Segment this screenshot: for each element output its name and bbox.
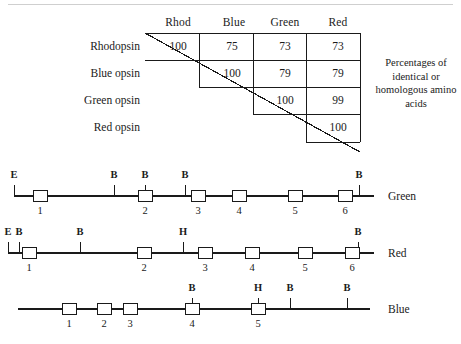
exon-box — [198, 247, 213, 259]
restriction-tick-b3 — [185, 185, 186, 196]
exon-number: 5 — [285, 205, 305, 217]
exon-number: 1 — [30, 205, 50, 217]
matrix-cell-r3c3: 100 — [310, 121, 366, 134]
gene-map-green: E B B B B 1 2 3 4 5 6 Green — [0, 163, 461, 221]
figure-page: Rhod Blue Green Red Rhodopsin Blue opsin… — [0, 0, 461, 344]
matrix-cell-r1c1: 100 — [204, 67, 260, 80]
gene-map-label-blue: Blue — [388, 303, 458, 316]
restriction-tick-b2 — [80, 242, 81, 253]
matrix-cell-r0c3: 73 — [310, 40, 366, 53]
restriction-label-h: H — [251, 282, 265, 294]
matrix-cell-r0c1: 75 — [204, 40, 260, 53]
exon-box — [62, 303, 77, 315]
exon-number: 6 — [335, 205, 355, 217]
matrix-cell-r1c2: 79 — [257, 67, 313, 80]
matrix-cell-r0c0: 100 — [150, 40, 206, 53]
exon-box — [185, 303, 200, 315]
exon-box — [245, 247, 260, 259]
exon-box — [123, 303, 138, 315]
gene-map-label-red: Red — [388, 247, 458, 260]
exon-number: 4 — [229, 205, 249, 217]
exon-number: 5 — [295, 262, 315, 274]
restriction-tick-b1 — [19, 242, 20, 253]
exon-box — [97, 303, 112, 315]
exon-box — [33, 190, 48, 202]
exon-number: 5 — [248, 318, 268, 330]
exon-box — [251, 303, 266, 315]
restriction-label-e: E — [7, 169, 21, 181]
matrix-cell-r2c2: 100 — [257, 94, 313, 107]
exon-box — [288, 190, 303, 202]
gene-map-blue: B H B B 1 2 3 4 5 Blue — [0, 276, 461, 334]
exon-box — [298, 247, 313, 259]
matrix-cell-r2c3: 99 — [310, 94, 366, 107]
exon-box — [137, 247, 152, 259]
restriction-label-b2: B — [283, 282, 297, 294]
matrix-cell-r1c3: 79 — [310, 67, 366, 80]
exon-box — [345, 247, 360, 259]
exon-number: 2 — [94, 318, 114, 330]
matrix-caption: Percentages of identical or homologous a… — [372, 56, 460, 110]
exon-number: 3 — [195, 262, 215, 274]
exon-box — [232, 190, 247, 202]
exon-number: 2 — [135, 205, 155, 217]
gene-map-red: E B B H B 1 2 3 4 5 6 Red — [0, 220, 461, 278]
restriction-label-b1: B — [107, 169, 121, 181]
restriction-label-b3: B — [351, 226, 365, 238]
restriction-label-b3: B — [178, 169, 192, 181]
restriction-label-b1: B — [12, 226, 26, 238]
gene-map-label-green: Green — [388, 190, 458, 203]
exon-number: 2 — [134, 262, 154, 274]
exon-box — [22, 247, 37, 259]
restriction-tick-b1 — [114, 185, 115, 196]
restriction-tick-h — [183, 242, 184, 253]
exon-number: 1 — [19, 262, 39, 274]
gene-axis-red — [8, 252, 374, 254]
exon-number: 6 — [342, 262, 362, 274]
exon-number: 3 — [120, 318, 140, 330]
restriction-tick-b4 — [359, 185, 360, 196]
restriction-tick-b3 — [347, 298, 348, 309]
restriction-label-b4: B — [352, 169, 366, 181]
restriction-label-b3: B — [340, 282, 354, 294]
restriction-tick-b2 — [290, 298, 291, 309]
exon-box — [338, 190, 353, 202]
exon-number: 1 — [59, 318, 79, 330]
restriction-label-b1: B — [185, 282, 199, 294]
exon-box — [138, 190, 153, 202]
restriction-tick-e — [8, 242, 9, 253]
exon-number: 3 — [188, 205, 208, 217]
matrix-cell-r0c2: 73 — [257, 40, 313, 53]
restriction-label-h: H — [176, 226, 190, 238]
homology-matrix: Rhod Blue Green Red Rhodopsin Blue opsin… — [0, 0, 461, 152]
restriction-tick-e — [14, 185, 15, 196]
exon-number: 4 — [242, 262, 262, 274]
restriction-label-b2: B — [73, 226, 87, 238]
exon-box — [191, 190, 206, 202]
exon-number: 4 — [182, 318, 202, 330]
restriction-label-b2: B — [138, 169, 152, 181]
